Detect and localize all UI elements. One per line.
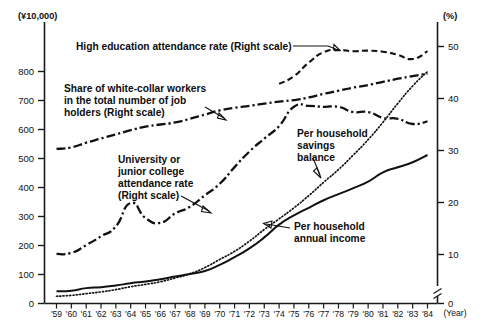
annotation-income: Per household annual income	[294, 221, 366, 244]
x-tick-label-60: '60	[66, 309, 77, 319]
annotation-income-line-0: Per household	[294, 221, 365, 232]
x-tick-label-67: '67	[170, 309, 181, 319]
left-tick-600: 600	[18, 124, 34, 135]
series-line-4	[279, 50, 427, 84]
x-tick-label-78: '78	[333, 309, 344, 319]
x-tick-label-68: '68	[184, 309, 195, 319]
left-tick-400: 400	[18, 182, 34, 193]
x-tick-label-65: '65	[140, 309, 151, 319]
right-axis-tick-labels: 50 40 30 20 10 0	[448, 41, 459, 309]
x-tick-label-71: '71	[229, 309, 240, 319]
right-tick-30: 30	[448, 145, 459, 156]
x-axis-tick-labels: '59'60'61'62'63'64'65'66'67'68'69'70'71'…	[51, 309, 433, 319]
annotation-white-collar-line-0: Share of white-collar workers	[64, 83, 206, 94]
left-tick-500: 500	[18, 153, 34, 164]
left-tick-800: 800	[18, 66, 34, 77]
x-tick-label-69: '69	[199, 309, 210, 319]
annotation-savings-line-1: savings	[297, 140, 335, 151]
left-tick-300: 300	[18, 211, 34, 222]
x-tick-label-81: '81	[377, 309, 388, 319]
x-tick-label-80: '80	[363, 309, 374, 319]
right-tick-10: 10	[448, 249, 459, 260]
series-line-0	[57, 155, 428, 291]
x-tick-label-83: '83	[407, 309, 418, 319]
axis-right	[434, 22, 442, 303]
left-axis-unit-label: (¥10,000)	[18, 11, 57, 21]
line-chart: 800 700 600 500 400 300 200 100 0 (¥10,0…	[0, 0, 482, 332]
x-tick-label-73: '73	[259, 309, 270, 319]
x-tick-label-62: '62	[95, 309, 106, 319]
right-tick-20: 20	[448, 197, 459, 208]
x-tick-label-66: '66	[155, 309, 166, 319]
x-tick-label-82: '82	[392, 309, 403, 319]
annotation-high-education-line-0: High education attendance rate (Right sc…	[76, 41, 292, 52]
x-tick-label-59: '59	[51, 309, 62, 319]
x-tick-label-63: '63	[110, 309, 121, 319]
annotation-university-line-3: (Right scale)	[118, 190, 179, 201]
x-tick-label-76: '76	[303, 309, 314, 319]
x-tick-label-77: '77	[318, 309, 329, 319]
annotation-university-line-1: junior college	[117, 166, 185, 177]
x-tick-label-79: '79	[348, 309, 359, 319]
left-tick-100: 100	[18, 269, 34, 280]
annotation-white-collar: Share of white-collar workers in the tot…	[64, 83, 206, 118]
left-axis-ticks	[38, 72, 45, 304]
annotation-income-line-1: annual income	[294, 233, 366, 244]
x-tick-label-64: '64	[125, 309, 136, 319]
annotation-high-education: High education attendance rate (Right sc…	[76, 41, 292, 52]
left-tick-0: 0	[29, 298, 34, 309]
annotation-university-line-2: attendance rate	[118, 178, 194, 189]
right-axis-unit-label: (%)	[443, 11, 457, 21]
right-axis-ticks	[438, 47, 445, 304]
annotation-white-collar-line-2: holders (Right scale)	[64, 107, 165, 118]
annotation-university: University or junior college attendance …	[117, 154, 194, 201]
x-tick-label-74: '74	[273, 309, 284, 319]
x-tick-label-72: '72	[244, 309, 255, 319]
x-tick-label-84: '84	[422, 309, 433, 319]
x-tick-label-75: '75	[288, 309, 299, 319]
chart-container: 800 700 600 500 400 300 200 100 0 (¥10,0…	[0, 0, 482, 332]
left-axis-tick-labels: 800 700 600 500 400 300 200 100 0	[18, 66, 34, 309]
annotation-university-line-0: University or	[118, 154, 180, 165]
annotation-savings: Per household savings balance	[297, 128, 368, 163]
x-tick-label-61: '61	[81, 309, 92, 319]
x-tick-label-70: '70	[214, 309, 225, 319]
annotation-savings-line-2: balance	[297, 152, 335, 163]
right-tick-50: 50	[448, 41, 459, 52]
left-tick-200: 200	[18, 240, 34, 251]
right-tick-40: 40	[448, 93, 459, 104]
annotation-white-collar-line-1: in the total number of job	[64, 95, 186, 106]
annotation-savings-line-0: Per household	[297, 128, 368, 139]
left-tick-700: 700	[18, 95, 34, 106]
x-axis-unit-label: (Year)	[443, 308, 466, 318]
